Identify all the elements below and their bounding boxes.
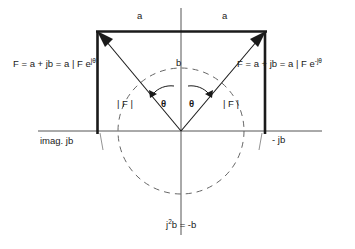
label-theta-right: θ [189, 99, 194, 109]
formula-left-exponent: jθ [91, 57, 96, 64]
label-b-center: b [176, 58, 181, 68]
label-j-squared-b: j2b = -b [166, 220, 196, 230]
formula-left: F = a + jb = a | F ejθ [13, 59, 96, 69]
tick-left-imag [100, 133, 103, 150]
phasor-arrowhead-upper-right [250, 31, 266, 47]
phasor-arrowhead-upper-left [97, 31, 113, 47]
label-magnitude-right: | F | [223, 99, 239, 109]
tick-right-imag [259, 133, 262, 150]
formula-right: F = a + jb = a | F e-jθ [237, 59, 322, 69]
label-imag-axis-right: - jb [272, 135, 285, 145]
jb-italic: jb [278, 134, 285, 145]
label-imag-axis-left: imag. jb [40, 136, 73, 146]
diagram-canvas [0, 0, 355, 249]
j-squared-remainder: b = -b [172, 219, 197, 230]
label-magnitude-left: | F | [117, 99, 133, 109]
label-a-left: a [137, 11, 142, 21]
formula-right-main: F = a + jb = a | F e [237, 58, 315, 69]
label-theta-left: θ [161, 99, 166, 109]
formula-left-main: F = a + jb = a | F e [13, 58, 91, 69]
label-a-right: a [222, 11, 227, 21]
phasor-diagram-figure: a a b | F | | F | θ θ F = a + jb = a | F… [0, 0, 355, 249]
theta-arc-left [153, 86, 174, 94]
formula-right-exponent: -jθ [315, 57, 322, 64]
theta-arc-right [188, 86, 209, 94]
